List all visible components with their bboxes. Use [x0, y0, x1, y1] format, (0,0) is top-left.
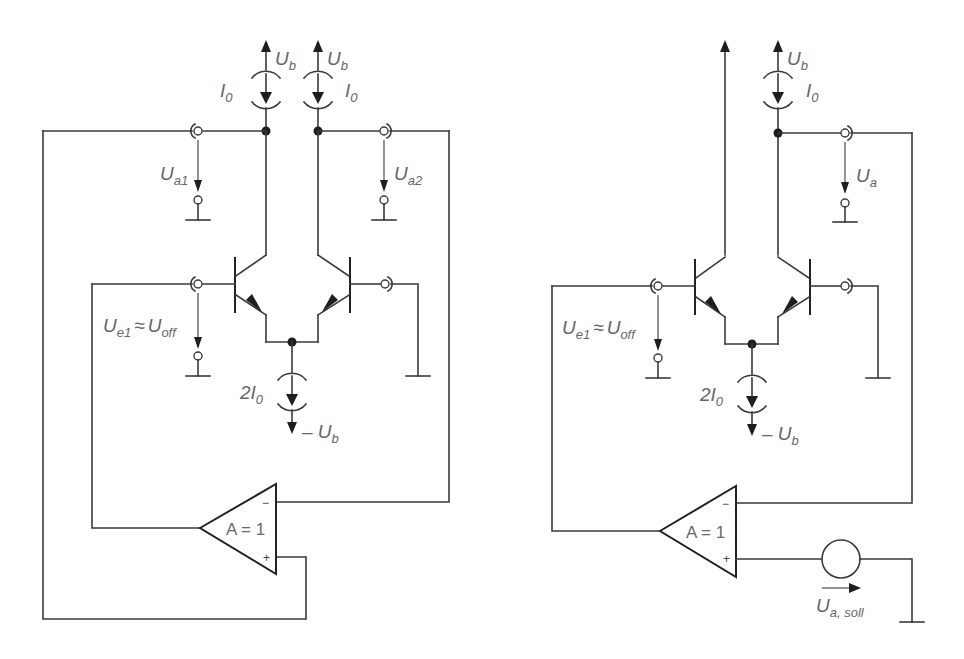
supply-label-left: Ub	[275, 48, 296, 73]
input-offset-label: Ue1≈Uoff	[103, 315, 177, 340]
voltage-source	[822, 540, 860, 578]
amp-minus-sign: −	[262, 496, 269, 510]
output-terminal-1	[194, 127, 202, 135]
current-label-left: I0	[220, 80, 233, 105]
amp-gain-label: A = 1	[226, 520, 265, 539]
output2-label: Ua2	[394, 163, 423, 188]
input-terminal	[194, 280, 202, 288]
setpoint-label: Ua, soll	[816, 595, 865, 620]
supply-label: Ub	[787, 48, 808, 73]
voltage-arrow-icon	[849, 583, 861, 593]
tail-current-label: 2I0	[239, 382, 264, 407]
input-offset-label: Ue1≈Uoff	[562, 317, 636, 342]
transistor-left	[663, 257, 725, 344]
supply-arrow-icon	[261, 40, 271, 52]
right-circuit: Ub I0 Ua	[552, 40, 924, 622]
output-label: Ua	[856, 165, 877, 190]
current-source	[764, 40, 792, 255]
supply-arrow-icon	[313, 40, 323, 52]
offset-compensation-diagram: Ub Ub I0 I0 Ua1 Ua2	[0, 0, 964, 659]
transistor-right	[318, 255, 380, 342]
amp-gain-label: A = 1	[686, 523, 725, 542]
amp-plus-sign: +	[263, 551, 270, 565]
amp-minus-sign: −	[722, 497, 729, 511]
transistor-right	[778, 257, 840, 344]
supply-label-right: Ub	[327, 48, 348, 73]
output1-label: Ua1	[160, 163, 188, 188]
input-terminal	[654, 282, 662, 290]
supply-arrow-icon	[720, 40, 730, 52]
current-arrow-icon	[260, 92, 272, 104]
current-arrow-icon	[312, 92, 324, 104]
current-label: I0	[806, 80, 819, 105]
left-circuit: Ub Ub I0 I0 Ua1 Ua2	[43, 40, 449, 619]
buffer-amplifier: A = 1 − +	[200, 484, 276, 574]
negative-supply-label: – Ub	[761, 423, 799, 448]
transistor-left	[203, 255, 266, 342]
current-label-right: I0	[345, 80, 358, 105]
buffer-amplifier: A = 1 − +	[660, 486, 736, 577]
tail-current-label: 2I0	[699, 384, 724, 409]
negative-supply-label: – Ub	[301, 421, 339, 446]
output-terminal	[841, 129, 849, 137]
output-terminal-2	[380, 127, 388, 135]
amp-plus-sign: +	[723, 552, 730, 566]
